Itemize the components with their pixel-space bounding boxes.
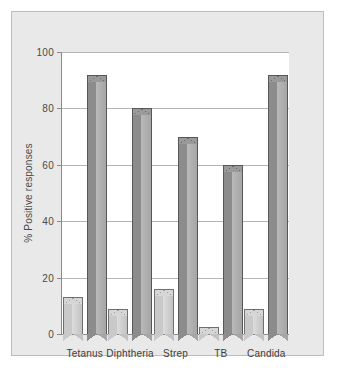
bar-body bbox=[178, 143, 198, 334]
bar-tetanus-light[interactable] bbox=[63, 297, 83, 334]
plot-area: 020406080100 TetanusDiphtheriaStrepTBCan… bbox=[61, 52, 289, 335]
bar-tb-light[interactable] bbox=[199, 327, 219, 334]
bar-tetanus-dark[interactable] bbox=[87, 75, 107, 334]
bar-foot bbox=[244, 334, 264, 341]
x-axis-label-candida: Candida bbox=[247, 348, 286, 359]
bar-body bbox=[108, 315, 128, 334]
bar-foot bbox=[132, 334, 152, 341]
bar-foot bbox=[63, 334, 83, 341]
y-axis-tick-label: 100 bbox=[36, 47, 54, 58]
bar-candida-light[interactable] bbox=[244, 309, 264, 334]
bar-body bbox=[63, 303, 83, 334]
bar-foot bbox=[154, 334, 174, 341]
bar-body bbox=[87, 81, 107, 334]
bar-cap bbox=[244, 309, 264, 316]
bar-cap bbox=[268, 75, 288, 82]
bar-group: TB bbox=[199, 52, 243, 334]
bar-foot bbox=[87, 334, 107, 341]
y-axis-tick bbox=[57, 52, 62, 53]
bar-foot bbox=[178, 334, 198, 341]
y-axis-tick bbox=[57, 108, 62, 109]
bar-cap bbox=[199, 327, 219, 334]
y-axis-title: % Positive responses bbox=[23, 143, 34, 243]
y-axis-tick-label: 80 bbox=[42, 103, 54, 114]
bar-body bbox=[154, 295, 174, 334]
bar-foot bbox=[108, 334, 128, 341]
bar-cap bbox=[223, 165, 243, 172]
bar-group: Tetanus bbox=[63, 52, 107, 334]
bar-diphtheria-dark[interactable] bbox=[132, 108, 152, 334]
bar-cap bbox=[108, 309, 128, 316]
bar-group: Strep bbox=[154, 52, 198, 334]
bar-cap bbox=[132, 108, 152, 115]
x-axis-label-tetanus: Tetanus bbox=[66, 348, 102, 359]
bar-cap bbox=[87, 75, 107, 82]
bar-cap bbox=[63, 297, 83, 304]
bar-strep-dark[interactable] bbox=[178, 137, 198, 334]
y-axis-tick-label: 60 bbox=[42, 159, 54, 170]
y-axis-tick-label: 40 bbox=[42, 216, 54, 227]
bar-strep-light[interactable] bbox=[154, 289, 174, 334]
y-axis-tick bbox=[57, 221, 62, 222]
bar-body bbox=[244, 315, 264, 334]
bar-body bbox=[268, 81, 288, 334]
bar-foot bbox=[199, 334, 219, 341]
bar-body bbox=[223, 171, 243, 334]
y-axis-tick bbox=[57, 165, 62, 166]
bar-foot bbox=[223, 334, 243, 341]
bar-candida-dark[interactable] bbox=[268, 75, 288, 334]
x-axis-label-strep: Strep bbox=[163, 348, 188, 359]
bar-body bbox=[132, 114, 152, 334]
y-axis-tick-label: 20 bbox=[42, 272, 54, 283]
x-axis-label-diphtheria: Diphtheria bbox=[106, 348, 154, 359]
chart-panel: % Positive responses 020406080100 Tetanu… bbox=[11, 11, 324, 356]
bar-tb-dark[interactable] bbox=[223, 165, 243, 334]
y-axis-tick-label: 0 bbox=[48, 329, 54, 340]
bar-group: Diphtheria bbox=[108, 52, 152, 334]
x-axis-label-tb: TB bbox=[214, 348, 227, 359]
bar-cap bbox=[178, 137, 198, 144]
y-axis-tick bbox=[57, 278, 62, 279]
bar-cap bbox=[154, 289, 174, 296]
y-axis-tick bbox=[57, 334, 62, 335]
bar-group: Candida bbox=[244, 52, 288, 334]
bar-foot bbox=[268, 334, 288, 341]
figure: % Positive responses 020406080100 Tetanu… bbox=[0, 0, 337, 368]
bar-diphtheria-light[interactable] bbox=[108, 309, 128, 334]
